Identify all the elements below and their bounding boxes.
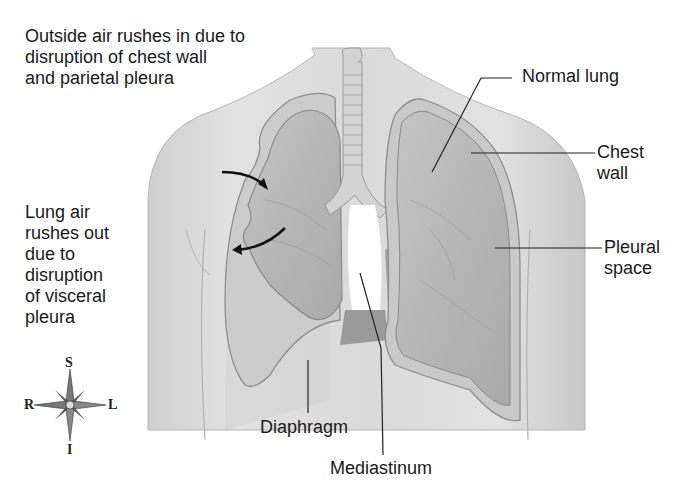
lung-air-label: Lung air rushes out due to disruption of… <box>25 202 109 328</box>
pleural-space-label: Pleural space <box>604 237 660 279</box>
chest-wall-label: Chest wall <box>597 142 644 184</box>
normal-lung-label: Normal lung <box>522 66 619 87</box>
mediastinum-label: Mediastinum <box>330 458 432 479</box>
compass-rose-icon <box>34 369 106 441</box>
compass-left-label: L <box>108 397 117 413</box>
outside-air-label: Outside air rushes in due to disruption … <box>25 26 245 89</box>
compass-right-label: R <box>24 397 34 413</box>
compass-superior-label: S <box>65 355 73 371</box>
compass-inferior-label: I <box>67 442 72 458</box>
diaphragm-label: Diaphragm <box>260 417 348 438</box>
pneumothorax-diagram: Outside air rushes in due to disruption … <box>0 0 691 498</box>
